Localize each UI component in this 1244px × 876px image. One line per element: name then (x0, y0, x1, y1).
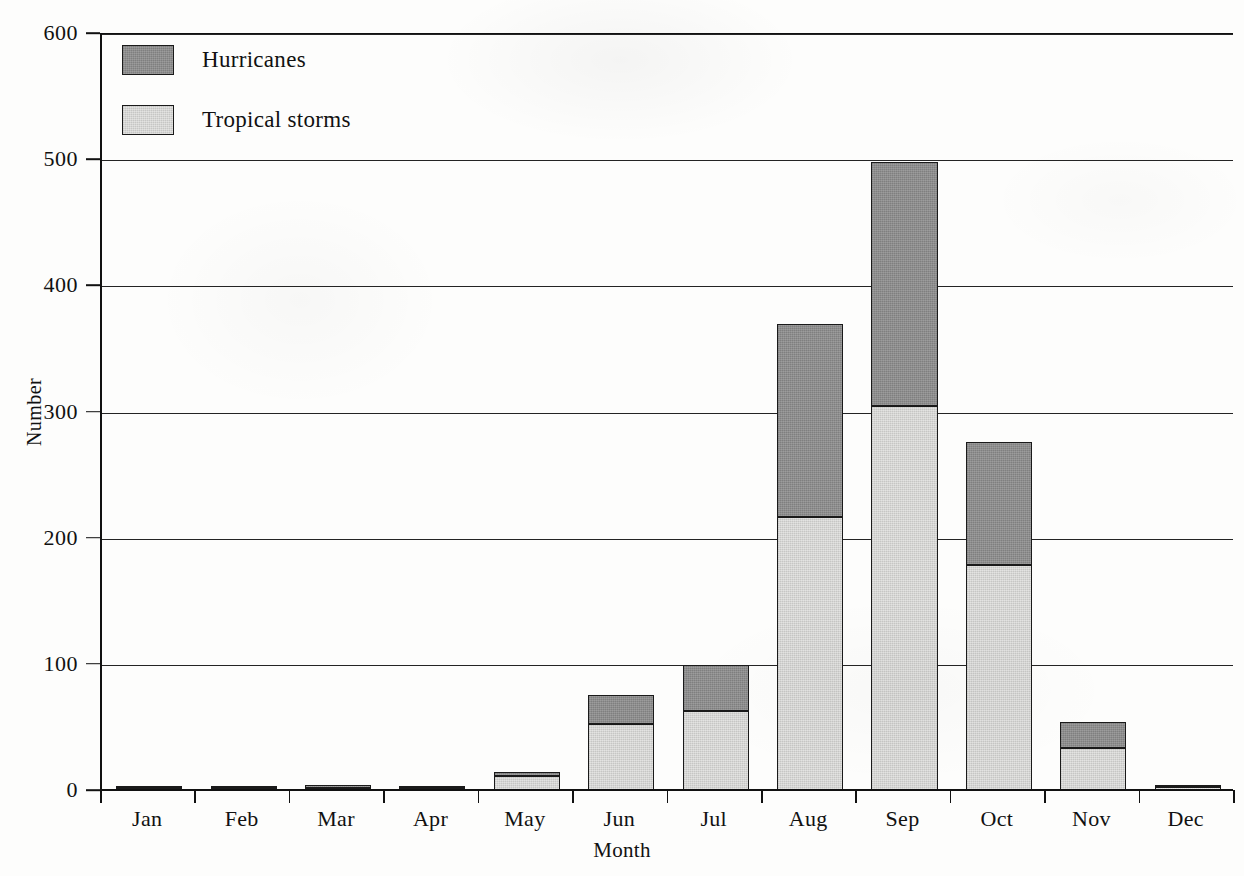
x-axis-tick-label: Aug (789, 806, 828, 832)
legend-swatch-hurricanes-icon (122, 45, 174, 75)
bar-segment-hurricanes (1060, 722, 1126, 748)
gridline (102, 539, 1233, 540)
x-axis-tick-mark (100, 790, 102, 803)
bar-segment-tropical-storms (588, 724, 654, 790)
stacked-bar-chart-figure: Number Hurricanes Tropical storms 010020… (0, 0, 1244, 876)
gridline (102, 665, 1233, 666)
x-axis-tick-mark (194, 790, 196, 803)
x-axis-tick-mark (289, 790, 291, 803)
legend-label-hurricanes: Hurricanes (202, 47, 306, 73)
bar-jul (683, 665, 749, 790)
bar-segment-hurricanes (1155, 785, 1221, 787)
y-axis-tick-mark (86, 411, 100, 413)
x-axis-tick-label: Mar (317, 806, 355, 832)
y-axis-tick-label: 0 (20, 779, 78, 801)
chart-legend: Hurricanes Tropical storms (122, 45, 351, 165)
y-axis-tick-mark (86, 789, 100, 791)
gridline (102, 286, 1233, 287)
bar-sep (871, 162, 937, 790)
x-axis-tick-label: May (504, 806, 545, 832)
x-axis-tick-label: Jun (604, 806, 635, 832)
y-axis-tick-label: 400 (20, 274, 78, 296)
bar-segment-tropical-storms (494, 776, 560, 790)
bar-segment-hurricanes (116, 786, 182, 788)
x-axis-tick-mark (761, 790, 763, 803)
x-axis-tick-mark (478, 790, 480, 803)
bar-segment-hurricanes (588, 695, 654, 724)
y-axis-tick-mark (86, 285, 100, 287)
bar-segment-hurricanes (211, 786, 277, 788)
bar-segment-hurricanes (399, 786, 465, 788)
bar-segment-tropical-storms (966, 565, 1032, 790)
y-axis-tick-label: 200 (20, 527, 78, 549)
gridline (102, 34, 1233, 35)
y-axis-tick-mark (86, 663, 100, 665)
bar-aug (777, 324, 843, 790)
bar-segment-hurricanes (305, 785, 371, 788)
x-axis-tick-label: Sep (886, 806, 920, 832)
bar-segment-hurricanes (494, 772, 560, 776)
x-axis-tick-mark (1139, 790, 1141, 803)
bar-segment-tropical-storms (1060, 748, 1126, 790)
x-axis-tick-label: Feb (225, 806, 259, 832)
y-axis-tick-mark (86, 32, 100, 34)
x-axis-tick-label: Jul (700, 806, 727, 832)
y-axis-tick-label: 500 (20, 148, 78, 170)
x-axis-tick-label: Apr (413, 806, 448, 832)
bar-segment-hurricanes (683, 665, 749, 710)
bar-segment-hurricanes (966, 442, 1032, 566)
x-axis-tick-label: Oct (981, 806, 1014, 832)
x-axis-tick-mark (950, 790, 952, 803)
bar-segment-tropical-storms (683, 711, 749, 790)
x-axis-label: Month (0, 838, 1244, 863)
y-axis-tick-label: 300 (20, 401, 78, 423)
x-axis-tick-mark (383, 790, 385, 803)
bar-nov (1060, 722, 1126, 790)
x-axis-tick-mark (572, 790, 574, 803)
x-axis-tick-label: Nov (1072, 806, 1111, 832)
bar-segment-hurricanes (777, 324, 843, 517)
bar-segment-hurricanes (871, 162, 937, 407)
bar-oct (966, 442, 1032, 790)
y-axis-tick-mark (86, 537, 100, 539)
y-axis-tick-label: 100 (20, 653, 78, 675)
bar-segment-tropical-storms (871, 406, 937, 790)
y-axis-tick-label: 600 (20, 22, 78, 44)
legend-item-hurricanes: Hurricanes (122, 45, 351, 75)
x-axis-tick-label: Jan (132, 806, 162, 832)
x-axis-tick-mark (1233, 790, 1235, 803)
y-axis-tick-mark (86, 158, 100, 160)
plot-area: Hurricanes Tropical storms (100, 33, 1233, 790)
x-axis-tick-mark (1044, 790, 1046, 803)
x-axis-tick-mark (667, 790, 669, 803)
x-axis-tick-label: Dec (1168, 806, 1204, 832)
bar-may (494, 772, 560, 790)
legend-item-tropical-storms: Tropical storms (122, 105, 351, 135)
legend-label-tropical-storms: Tropical storms (202, 107, 351, 133)
legend-swatch-tropical-storms-icon (122, 105, 174, 135)
gridline (102, 413, 1233, 414)
bar-jun (588, 695, 654, 790)
x-axis-tick-mark (855, 790, 857, 803)
bar-segment-tropical-storms (777, 517, 843, 790)
